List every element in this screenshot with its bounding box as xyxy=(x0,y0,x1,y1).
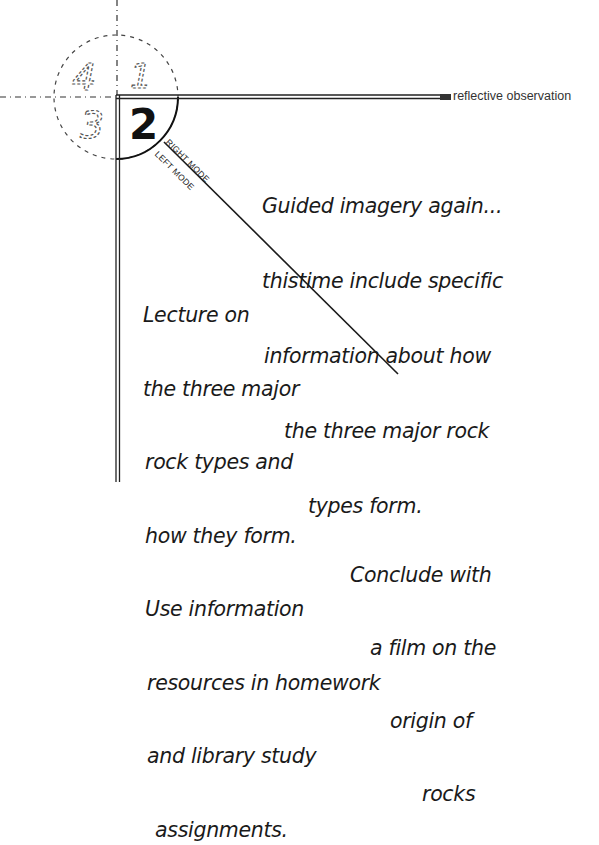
note-line: and library study xyxy=(147,744,380,769)
left-mode-notes: Lecture on the three major rock types an… xyxy=(143,254,380,845)
note-line: rock types and xyxy=(145,450,380,475)
note-line: how they form. xyxy=(145,524,380,549)
note-line: a film on the xyxy=(370,636,503,661)
note-line: origin of xyxy=(390,709,503,734)
note-line: Use information xyxy=(145,597,380,622)
note-line: assignments. xyxy=(155,818,380,843)
quadrant-4-number: 4 xyxy=(72,55,96,99)
quadrant-2-number: 2 xyxy=(129,100,158,149)
note-line: rocks xyxy=(422,782,503,807)
note-line: the three major xyxy=(143,377,380,402)
note-line: resources in homework xyxy=(147,671,380,696)
note-line: Lecture on xyxy=(143,303,380,328)
reflective-observation-label: reflective observation xyxy=(453,89,571,103)
quadrant-3-number: 3 xyxy=(80,103,104,147)
quadrant-1-number: 1 xyxy=(130,56,152,96)
note-line: Guided imagery again... xyxy=(262,194,503,219)
